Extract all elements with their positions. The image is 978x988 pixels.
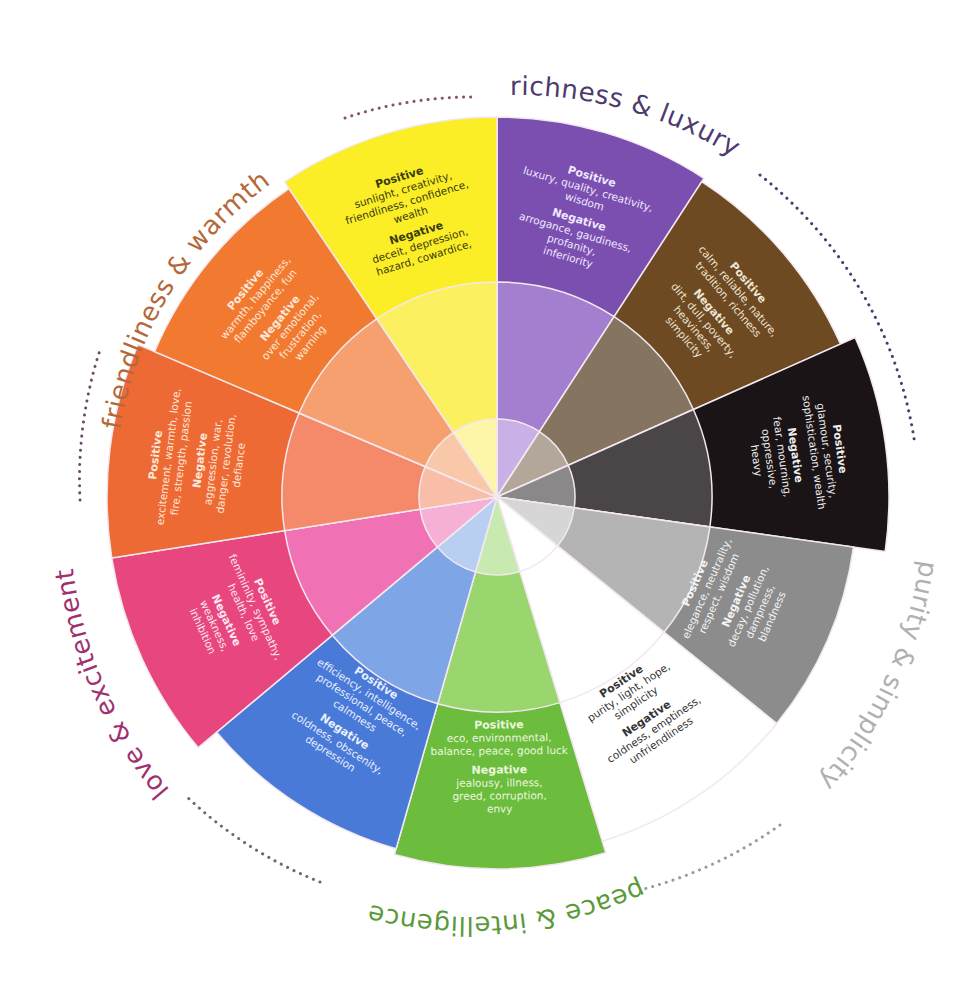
dotted-arc-friendliness xyxy=(345,97,475,118)
attribute-text: greed, corruption, xyxy=(452,789,547,802)
dotted-arc-purity xyxy=(640,825,780,890)
category-label-peace: peace & intelligence xyxy=(364,875,649,941)
dotted-arc-peace xyxy=(185,795,320,882)
attribute-text: eco, environmental, xyxy=(447,731,552,744)
attribute-text: balance, peace, good luck xyxy=(430,744,568,757)
attribute-text: envy xyxy=(487,802,513,814)
attribute-text: jealousy, illness, xyxy=(455,776,542,789)
color-psychology-wheel: Positiveluxury, quality, creativity,wisd… xyxy=(0,0,978,988)
positive-heading: Positive xyxy=(474,718,524,731)
negative-heading: Negative xyxy=(472,763,528,776)
